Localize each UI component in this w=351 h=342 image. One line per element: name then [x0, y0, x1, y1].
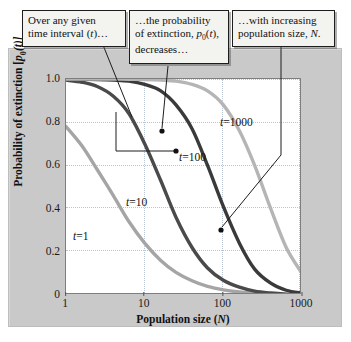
curve-label-t100: t=100: [179, 151, 206, 163]
curve-label-t10-value: =10: [129, 196, 147, 208]
y-tick-0.6: 0.6: [46, 158, 60, 170]
callout-probability-line3: decreases…: [135, 43, 224, 56]
callout-probability: …the probability of extinction, p0(t), d…: [129, 10, 229, 64]
callout-population-size-line2-prefix: population size,: [238, 27, 310, 39]
x-tickmark-100: [222, 292, 223, 296]
x-axis-label: Population size (N): [65, 313, 301, 325]
curve-label-t1000-value: =1000: [223, 116, 253, 128]
x-axis-label-var: N: [217, 313, 225, 325]
callout-time-interval-line1: Over any given: [28, 14, 121, 27]
callout-time-interval: Over any given time interval (t)…: [22, 10, 126, 47]
x-tickmark-1000: [301, 292, 302, 296]
curve-group: [66, 79, 300, 293]
x-tick-1: 1: [62, 297, 68, 309]
x-tick-label-1000: 1000: [290, 297, 313, 309]
x-tick-label-100: 100: [214, 297, 231, 309]
callout-probability-line2-suffix: ),: [212, 27, 218, 39]
callout-time-interval-line2: time interval (t)…: [28, 27, 121, 40]
callout-population-size-line1: …with increasing: [238, 14, 330, 27]
x-tickmark-1: [65, 292, 66, 296]
callout-population-size-line2: population size, N.: [238, 27, 330, 40]
y-axis-label-p: p: [12, 55, 24, 61]
y-tick-0: 0: [54, 288, 60, 300]
x-tick-10: 10: [138, 297, 150, 309]
x-tick-label-1: 1: [62, 297, 68, 309]
x-tick-100: 100: [214, 297, 231, 309]
x-tick-label-10: 10: [138, 297, 150, 309]
plot-frame: [65, 78, 301, 294]
callout-population-size-line2-var: N: [310, 27, 317, 39]
callout-population-size: …with increasing population size, N.: [232, 10, 335, 47]
curve-label-t10: t=10: [126, 196, 147, 208]
y-tick-0.8: 0.8: [46, 115, 60, 127]
callout-probability-line1: …the probability: [135, 14, 224, 27]
curve-t100: [66, 79, 300, 293]
y-axis-label-subscript: 0: [19, 51, 28, 55]
x-tick-1000: 1000: [290, 297, 313, 309]
y-axis-label-prefix: Probability of extinction [: [12, 61, 24, 187]
x-tickmark-10: [144, 292, 145, 296]
curve-label-t1: t=1: [73, 230, 88, 242]
x-axis-ticks: 1 10 100 1000: [65, 297, 301, 313]
y-tick-1.0: 1.0: [46, 72, 60, 84]
callout-time-interval-line2-prefix: time interval (: [28, 27, 90, 39]
curve-label-t1000: t=1000: [220, 116, 253, 128]
callout-population-size-line2-suffix: .: [318, 27, 321, 39]
x-axis-label-prefix: Population size (: [136, 313, 217, 325]
x-axis-label-suffix: ): [226, 313, 230, 325]
y-tick-0.4: 0.4: [46, 202, 60, 214]
callout-probability-line2: of extinction, p0(t),: [135, 27, 224, 43]
callout-probability-line2-prefix: of extinction,: [135, 27, 196, 39]
curve-label-t1-value: =1: [76, 230, 88, 242]
y-tick-0.2: 0.2: [46, 245, 60, 257]
plot-area: [66, 79, 300, 293]
curve-label-t100-value: =100: [182, 151, 206, 163]
callout-time-interval-line2-suffix: )…: [93, 27, 108, 39]
